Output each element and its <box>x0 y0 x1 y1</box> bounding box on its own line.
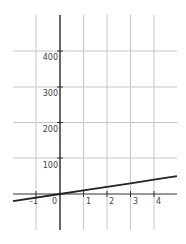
svg-text:200: 200 <box>43 125 58 134</box>
chart: -1 0 1 2 3 4 100 200 300 400 <box>0 0 186 244</box>
data-line <box>13 176 177 201</box>
svg-text:4: 4 <box>156 197 161 206</box>
svg-text:0: 0 <box>52 197 57 206</box>
y-tick-labels: 100 200 300 400 <box>43 53 58 170</box>
svg-text:3: 3 <box>133 197 138 206</box>
x-tick-labels: -1 0 1 2 3 4 <box>30 197 161 206</box>
svg-text:1: 1 <box>86 197 91 206</box>
svg-text:2: 2 <box>109 197 114 206</box>
axis-ticks <box>36 51 154 197</box>
svg-text:100: 100 <box>43 161 58 170</box>
svg-text:300: 300 <box>43 89 58 98</box>
horizontal-gridlines <box>13 51 177 158</box>
svg-text:400: 400 <box>43 53 58 62</box>
